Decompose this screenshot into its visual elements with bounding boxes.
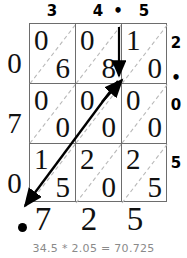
result-bottom-row: 7 2 5 — [16, 203, 176, 239]
cell-r2c3-tens: 0 — [126, 86, 141, 115]
multiplicand-digit-5: 5 — [136, 2, 152, 21]
result-left-digit-3: 0 — [2, 169, 27, 198]
cell-r2c3: 0 0 — [122, 84, 168, 144]
cell-r3c2-ones: 0 — [102, 173, 117, 202]
cell-r1c3-tens: 1 — [126, 26, 141, 55]
multiplier-decimal-point: • — [168, 69, 184, 87]
cell-r1c2: 0 8 — [76, 24, 122, 84]
cell-r3c3-ones: 5 — [148, 173, 163, 202]
cell-r3c2-tens: 2 — [80, 145, 95, 174]
multiplicand-decimal-point: • — [113, 2, 123, 21]
multiplier-digit-0: 0 — [168, 96, 184, 114]
equation-caption: 34.5 * 2.05 = 70.725 — [0, 242, 187, 255]
cell-r1c2-ones: 8 — [102, 54, 117, 83]
cell-r2c3-ones: 0 — [148, 113, 163, 142]
result-left-digit-2: 7 — [2, 109, 27, 138]
multiplier-digit-2: 2 — [168, 34, 184, 52]
lattice-grid: 0 6 0 8 1 0 0 0 0 0 0 0 1 5 2 0 — [29, 23, 167, 202]
result-left-digit-1: 0 — [2, 49, 27, 78]
result-left-column: 0 7 0 — [2, 23, 29, 202]
cell-r1c1: 0 6 — [30, 24, 76, 84]
multiplier-column: 2 • 0 5 — [168, 23, 187, 203]
multiplicand-digit-4: 4 — [90, 2, 106, 21]
cell-r3c2: 2 0 — [76, 143, 122, 203]
cell-r1c3-ones: 0 — [148, 54, 163, 83]
result-bottom-digit-2: 2 — [72, 203, 106, 236]
cell-r1c3: 1 0 — [122, 24, 168, 84]
cell-r1c1-ones: 6 — [56, 54, 71, 83]
cell-r2c2: 0 0 — [76, 84, 122, 144]
cell-r3c3-tens: 2 — [126, 145, 141, 174]
cell-r2c2-tens: 0 — [80, 86, 95, 115]
cell-r3c1-tens: 1 — [34, 145, 49, 174]
multiplier-digit-5: 5 — [168, 154, 184, 172]
cell-r2c2-ones: 0 — [102, 113, 117, 142]
result-bottom-digit-5: 5 — [118, 203, 152, 236]
multiplicand-header: 3 4 • 5 — [29, 2, 167, 22]
cell-r2c1-tens: 0 — [34, 86, 49, 115]
cell-r3c1: 1 5 — [30, 143, 76, 203]
multiplicand-digit-3: 3 — [44, 2, 60, 21]
result-bottom-digit-7: 7 — [26, 203, 60, 236]
cell-r1c2-tens: 0 — [80, 26, 95, 55]
cell-r1c1-tens: 0 — [34, 26, 49, 55]
cell-r2c1-ones: 0 — [56, 113, 71, 142]
cell-r3c1-ones: 5 — [56, 173, 71, 202]
cell-r3c3: 2 5 — [122, 143, 168, 203]
lattice-multiplication-figure: 3 4 • 5 2 • 0 5 — [0, 0, 187, 258]
cell-r2c1: 0 0 — [30, 84, 76, 144]
